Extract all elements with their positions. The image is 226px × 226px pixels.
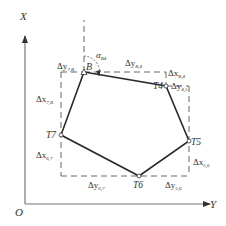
origin-label: O: [15, 206, 23, 218]
traverse-polygon: [61, 72, 189, 176]
delta-x-56-label: Δx5,6: [193, 157, 210, 169]
delta-x-B4-label: ΔxB,4: [168, 68, 186, 80]
station-T4-marker: [164, 84, 168, 88]
coordinate-axes: [25, 36, 210, 204]
delta-y-56-label: Δy5,6: [165, 180, 182, 192]
station-T5-label: T5: [191, 137, 201, 147]
delta-y-45-label: Δy4,5: [171, 81, 188, 93]
azimuth-angle-label: αB4: [96, 50, 107, 61]
increment-dashed-box: [61, 20, 189, 176]
delta-x-7B-label: Δx7,B: [36, 94, 53, 106]
traverse-diagram: X Y O B T4 T5 T6 T7 αB4 Δy7,B Δx7,B ΔyB,…: [0, 0, 226, 226]
delta-y-7B-label: Δy7,B: [57, 61, 74, 73]
station-T6-marker: [137, 174, 141, 178]
delta-x-67-label: Δx6,7: [36, 150, 53, 162]
station-T4-label: T4: [153, 81, 163, 91]
y-axis-label: Y: [210, 198, 218, 210]
station-T7-label: T7: [46, 130, 57, 140]
station-T7-marker: [59, 133, 63, 137]
delta-y-B4-label: ΔyB,4: [125, 58, 143, 70]
station-T6-label: T6: [133, 180, 143, 190]
station-B-label: B: [86, 61, 92, 72]
delta-y-67-label: Δy6,7: [88, 180, 105, 192]
x-axis-label: X: [19, 10, 28, 22]
